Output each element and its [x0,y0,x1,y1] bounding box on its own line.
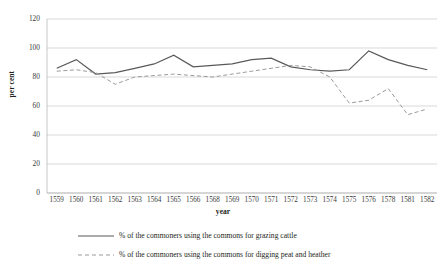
gridlines [47,19,437,193]
legend-item-digging-peat: % of the commoners using the commons for… [0,245,446,264]
legend-label-grazing-cattle: % of the commoners using the commons for… [119,231,297,240]
series-line-1 [57,51,428,74]
chart-legend: % of the commoners using the commons for… [0,226,446,264]
data-series-layer [57,51,428,115]
chart-container: per cent 020406080100120 155915601561156… [0,0,446,273]
legend-label-digging-peat: % of the commoners using the commons for… [119,250,331,259]
solid-line-key [78,231,114,241]
dashed-line-key [78,250,114,260]
legend-item-grazing-cattle: % of the commoners using the commons for… [0,226,446,245]
x-axis-title: year [0,207,446,216]
